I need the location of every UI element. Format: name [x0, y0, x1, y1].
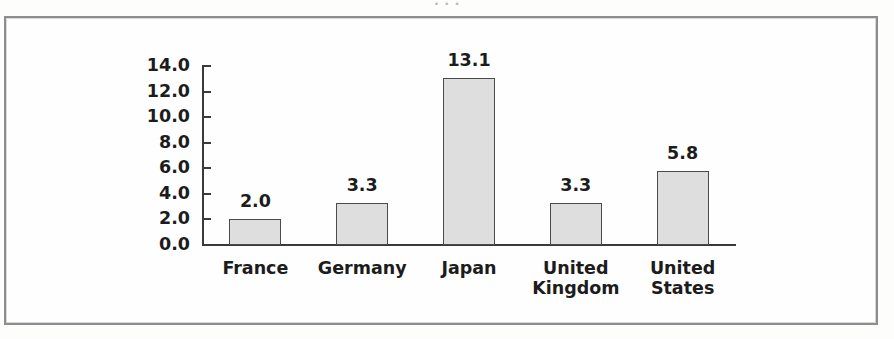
y-axis-tick-label: 4.0 [130, 185, 190, 203]
x-axis-category-label-line: Germany [300, 258, 424, 278]
bar-value-label: 2.0 [210, 193, 300, 211]
x-axis-category-label-line: Japan [407, 258, 531, 278]
x-axis-category-label: UnitedStates [621, 258, 745, 298]
y-axis-tick-label: 8.0 [130, 134, 190, 152]
y-axis-tick-mark [202, 116, 211, 118]
x-axis-category-label: Japan [407, 258, 531, 278]
bar [550, 203, 602, 245]
bar [336, 203, 388, 245]
bar-value-label: 3.3 [317, 177, 407, 195]
x-axis-category-label: France [193, 258, 317, 278]
x-axis-category-label-line: States [621, 278, 745, 298]
y-axis-tick-mark [202, 167, 211, 169]
y-axis-tick-mark [202, 218, 211, 220]
y-axis-tick-label: 14.0 [130, 57, 190, 75]
y-axis-tick-mark [202, 91, 211, 93]
y-axis-tick-mark [202, 65, 211, 67]
bar-chart: 14.012.010.08.06.04.02.00.0 2.03.313.13.… [0, 0, 894, 339]
x-axis-category-label-line: United [514, 258, 638, 278]
y-axis-tick-labels: 14.012.010.08.06.04.02.00.0 [128, 0, 190, 339]
x-axis-category-label: Germany [300, 258, 424, 278]
bar-value-label: 5.8 [638, 145, 728, 163]
bar [229, 219, 281, 245]
y-axis-tick-label: 10.0 [130, 108, 190, 126]
bar [657, 171, 709, 245]
y-axis-tick-label: 6.0 [130, 159, 190, 177]
chart-page: · · · 14.012.010.08.06.04.02.00.0 2.03.3… [0, 0, 894, 339]
y-axis-tick-label: 12.0 [130, 83, 190, 101]
x-axis-category-label-line: France [193, 258, 317, 278]
y-axis-tick-label: 0.0 [130, 236, 190, 254]
bar-value-label: 13.1 [424, 52, 514, 70]
y-axis-tick-label: 2.0 [130, 210, 190, 228]
x-axis-category-label-line: United [621, 258, 745, 278]
y-axis-tick-mark [202, 244, 211, 246]
bar-value-label: 3.3 [531, 177, 621, 195]
x-axis-category-label: UnitedKingdom [514, 258, 638, 298]
x-axis-category-label-line: Kingdom [514, 278, 638, 298]
y-axis-tick-mark [202, 142, 211, 144]
bar [443, 78, 495, 245]
